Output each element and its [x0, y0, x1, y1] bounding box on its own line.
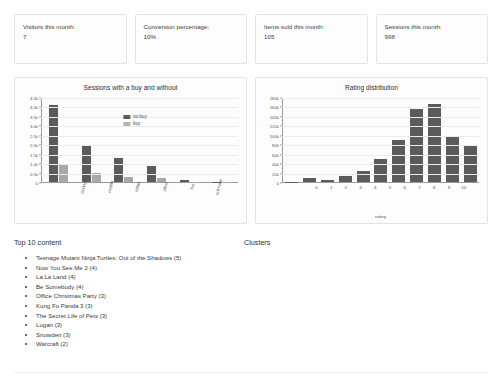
x-axis-tick-label: 3: [359, 185, 361, 190]
x-axis-tick-label: other: [161, 181, 168, 192]
bar-group[interactable]: [319, 98, 337, 182]
bar-group[interactable]: [426, 98, 444, 182]
bar[interactable]: [321, 180, 334, 182]
bar[interactable]: [339, 176, 352, 182]
y-axis-tick-mark: [280, 98, 282, 99]
chart-legend-sessions: no buy buy: [123, 114, 147, 128]
gridline: [41, 98, 238, 99]
dashboard-page: Visitors this month: 7 Conversion percen…: [0, 0, 501, 380]
bar-group[interactable]: [461, 98, 479, 182]
list-item: Teenage Mutant Ninja Turtles: Out of the…: [36, 253, 244, 263]
x-axis-tick-labels: desktopmobiletabletotherbotunknown: [68, 183, 230, 191]
gridline: [41, 155, 238, 156]
plot-area-rating: 020k40k60k80k100k120k140k160k180k0123456…: [282, 98, 479, 183]
bar-group[interactable]: [283, 98, 301, 182]
y-axis-tick-mark: [39, 107, 41, 108]
list-item: Now You See Me 2 (4): [36, 263, 244, 273]
y-axis-tick-mark: [280, 135, 282, 136]
bar-group[interactable]: [42, 98, 75, 182]
top-content-list: Teenage Mutant Ninja Turtles: Out of the…: [14, 253, 244, 349]
top-content-column: Top 10 content Teenage Mutant Ninja Turt…: [14, 238, 244, 349]
legend-item-no-buy: no buy: [123, 114, 147, 119]
list-item: Be Somebody (4): [36, 282, 244, 292]
bar-group[interactable]: [408, 98, 426, 182]
plot-rating: 020k40k60k80k100k120k140k160k180k0123456…: [256, 94, 487, 223]
stat-card-items-sold: Items sold this month: 105: [255, 14, 368, 64]
bar-group[interactable]: [372, 98, 390, 182]
x-axis-tick-label: 9: [448, 185, 450, 190]
bar-group[interactable]: [140, 98, 173, 182]
list-item: Office Christmas Party (3): [36, 291, 244, 301]
gridline: [282, 98, 479, 99]
bar-group[interactable]: [301, 98, 319, 182]
legend-item-buy: buy: [123, 121, 147, 126]
y-axis-tick-mark: [280, 116, 282, 117]
bar-group[interactable]: [390, 98, 408, 182]
x-axis-tick-label: tablet: [134, 181, 141, 192]
x-axis-title-rating: rating: [282, 214, 479, 219]
list-item: The Secret Life of Pets (3): [36, 311, 244, 321]
stat-value: 998: [385, 32, 480, 41]
plot-area-sessions: 00.5k1.0k1.5k2.0k2.5k3.0k3.5k4.0k4.5kdes…: [41, 98, 238, 183]
gridline: [41, 145, 238, 146]
stat-card-conversion: Conversion percentage: 10%: [135, 14, 248, 64]
legend-swatch-icon: [123, 115, 130, 119]
gridline: [41, 136, 238, 137]
gridline: [282, 145, 479, 146]
y-axis-tick-mark: [39, 116, 41, 117]
bar-group[interactable]: [173, 98, 206, 182]
stat-card-sessions: Sessions this month: 998: [376, 14, 489, 64]
stat-value: 10%: [144, 32, 239, 41]
x-axis-tick-label: 1: [330, 185, 332, 190]
bar-group[interactable]: [354, 98, 372, 182]
chart-panel-rating: Rating distribution 020k40k60k80k100k120…: [255, 77, 488, 224]
y-axis-tick-mark: [39, 164, 41, 165]
x-axis-tick-label: 2: [345, 185, 347, 190]
y-axis-tick-mark: [280, 164, 282, 165]
bar-no-buy[interactable]: [114, 158, 123, 182]
legend-label: no buy: [133, 114, 147, 119]
x-axis-tick-label: 0: [315, 185, 317, 190]
stat-value: 105: [264, 32, 359, 41]
list-item: Snowden (3): [36, 330, 244, 340]
stat-label: Sessions this month:: [385, 22, 480, 31]
bar-group-container: [42, 98, 238, 182]
bar[interactable]: [374, 159, 387, 182]
bar[interactable]: [446, 137, 459, 182]
bar-no-buy[interactable]: [180, 180, 189, 182]
chart-title-sessions: Sessions with a buy and without: [15, 84, 246, 91]
y-axis-tick-mark: [39, 145, 41, 146]
y-axis-tick-mark: [280, 107, 282, 108]
bar[interactable]: [428, 104, 441, 182]
gridline: [41, 107, 238, 108]
y-axis-tick-mark: [280, 173, 282, 174]
bar-group[interactable]: [75, 98, 108, 182]
bar-group[interactable]: [443, 98, 461, 182]
list-item: Logan (3): [36, 320, 244, 330]
y-axis-tick-mark: [280, 183, 282, 184]
gridline: [282, 117, 479, 118]
top-content-heading: Top 10 content: [14, 238, 244, 247]
y-axis-tick-mark: [39, 183, 41, 184]
gridline: [282, 164, 479, 165]
footer-divider: [14, 372, 487, 373]
bar-buy[interactable]: [124, 177, 133, 182]
bar-group[interactable]: [205, 98, 238, 182]
bar[interactable]: [392, 140, 405, 182]
x-axis-tick-label: 5: [389, 185, 391, 190]
x-axis-tick-label: 6: [404, 185, 406, 190]
x-axis-tick-label: 10: [461, 185, 466, 190]
x-axis-tick-label: 8: [433, 185, 435, 190]
y-axis-tick-mark: [280, 126, 282, 127]
clusters-column: Clusters: [244, 238, 474, 349]
bar-group[interactable]: [107, 98, 140, 182]
x-axis-tick-labels: 012345678910: [309, 183, 471, 190]
gridline: [282, 136, 479, 137]
bar[interactable]: [303, 178, 316, 182]
bar-group[interactable]: [336, 98, 354, 182]
x-axis-tick-label: 4: [374, 185, 376, 190]
gridline: [282, 126, 479, 127]
chart-title-rating: Rating distribution: [256, 84, 487, 91]
stat-card-visitors: Visitors this month: 7: [14, 14, 127, 64]
gridline: [282, 107, 479, 108]
